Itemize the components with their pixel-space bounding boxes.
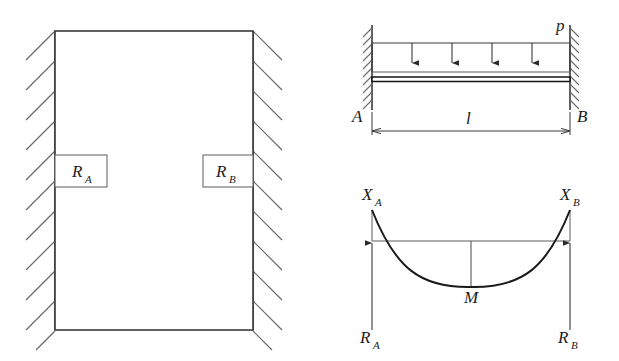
moment-a-subscript: A <box>374 196 382 208</box>
left-wall-hatching <box>26 31 55 350</box>
support-a-label: A <box>351 107 363 126</box>
panel-loaded-beam: p A B l <box>351 16 588 135</box>
engineering-figure: R A R B <box>0 0 619 361</box>
reaction-a-subscript: A <box>84 173 92 185</box>
moment-b-label: X <box>559 185 571 204</box>
support-b-label: B <box>577 107 588 126</box>
midspan-moment-label: M <box>463 288 479 307</box>
reaction-b-label: R <box>215 162 227 181</box>
figure-canvas: R A R B <box>0 0 619 361</box>
panel-reaction-block: R A R B <box>26 31 282 350</box>
moment-reaction-b-subscript: B <box>571 339 578 351</box>
reaction-a-label: R <box>71 162 83 181</box>
moment-a-label: X <box>361 185 373 204</box>
moment-b-subscript: B <box>573 196 580 208</box>
panel-bending-moment: X A X B M R A R B <box>359 185 580 351</box>
moment-reaction-b-label: R <box>557 328 569 347</box>
reaction-b-subscript: B <box>229 173 236 185</box>
beam-right-support-hatching <box>570 28 579 109</box>
beam-left-support-hatching <box>363 28 372 109</box>
moment-reaction-a-label: R <box>359 328 371 347</box>
load-label: p <box>555 16 565 35</box>
span-label: l <box>466 109 471 128</box>
distributed-load-arrows <box>412 43 532 63</box>
reaction-box-b <box>203 155 253 187</box>
moment-reaction-a-subscript: A <box>372 339 380 351</box>
beam-body <box>372 77 570 82</box>
right-wall-hatching <box>253 31 282 350</box>
